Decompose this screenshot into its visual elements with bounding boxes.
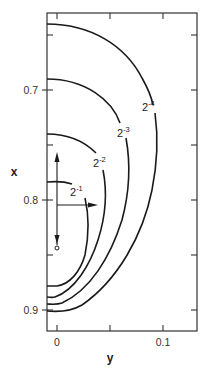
top-ticks bbox=[57, 13, 163, 19]
y-tick-label-0.7: 0.7 bbox=[23, 84, 38, 96]
contour-2-1 bbox=[47, 182, 88, 286]
y-tick-label-0.8: 0.8 bbox=[23, 194, 38, 206]
x-axis-label: y bbox=[107, 351, 114, 365]
contour-label-2-2: 2-2 bbox=[93, 155, 106, 169]
contour-2-4 bbox=[47, 24, 157, 311]
right-ticks bbox=[191, 35, 197, 310]
arrowhead-down-icon bbox=[55, 235, 60, 244]
contour-chart: 0.7 0.8 0.9 0 0.1 x y 2-4 2-3 2-2 2-1 bbox=[0, 0, 205, 378]
contour-label-2-4: 2-4 bbox=[142, 99, 155, 113]
horizontal-arrow bbox=[57, 203, 98, 208]
y-tick-label-0.9: 0.9 bbox=[23, 304, 38, 316]
arrowhead-right-icon bbox=[88, 203, 98, 208]
vertical-arrow bbox=[55, 152, 60, 250]
y-axis-label: x bbox=[11, 165, 18, 179]
plot-frame bbox=[47, 13, 197, 331]
x-tick-label-0: 0 bbox=[54, 336, 60, 348]
contour-label-2-1: 2-1 bbox=[70, 184, 83, 198]
contour-label-2-3: 2-3 bbox=[117, 125, 130, 139]
x-tick-label-0.1: 0.1 bbox=[156, 336, 171, 348]
bottom-ticks bbox=[57, 325, 163, 331]
arrowhead-up-icon bbox=[55, 152, 60, 162]
origin-circle-icon bbox=[55, 246, 59, 250]
